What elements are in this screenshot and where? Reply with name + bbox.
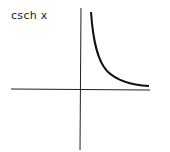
csch-curve <box>91 12 149 86</box>
y-axis <box>80 8 81 150</box>
plot <box>0 0 170 152</box>
